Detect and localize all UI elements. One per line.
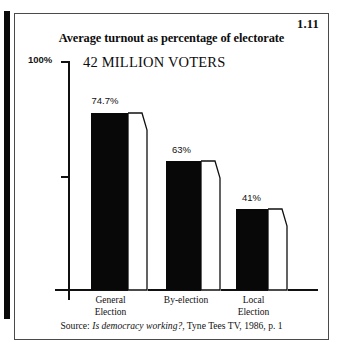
bar-front-0 — [91, 113, 129, 290]
bar-value-2: 41% — [224, 192, 279, 203]
bar-category-2: Local Election — [221, 295, 286, 318]
source-title: Is democracy working? — [92, 320, 182, 331]
source-rest: , Tyne Tees TV, 1986, p. 1 — [182, 320, 282, 331]
y-axis-origin-stub — [68, 289, 70, 300]
y-axis-label-100: 100% — [28, 54, 52, 65]
bar-category-0: General Election — [78, 295, 143, 318]
overlay-headline: 42 MILLION VOTERS — [83, 54, 226, 71]
y-axis-tick-50 — [61, 176, 70, 178]
source-prefix: Source: — [60, 320, 92, 331]
page-edge-artifact — [4, 11, 10, 319]
plot-area: 100% 42 MILLION VOTERS 74.7% General Ele… — [15, 14, 328, 339]
bar-side-1 — [201, 160, 221, 291]
source-note: Source: Is democracy working?, Tyne Tees… — [15, 320, 328, 331]
bar-side-2 — [268, 208, 288, 291]
bar-category-1: By-election — [151, 295, 221, 307]
bar-value-0: 74.7% — [75, 95, 135, 106]
figure-frame: 1.11 Average turnout as percentage of el… — [14, 13, 329, 340]
y-axis-tick-100 — [61, 61, 70, 63]
bar-front-1 — [166, 161, 202, 290]
bar-side-0 — [128, 112, 148, 291]
bar-value-1: 63% — [154, 144, 209, 155]
bar-front-2 — [236, 209, 269, 290]
